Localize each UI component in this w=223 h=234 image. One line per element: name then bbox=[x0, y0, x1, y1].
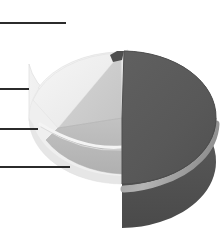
pie-chart-figure: Segment 1 Segment 2 Segment 3 Segment 4 … bbox=[0, 0, 223, 234]
pie-inner-cutaway-group bbox=[29, 50, 129, 184]
pie-chart-canvas bbox=[0, 0, 223, 234]
pie-slice-segment-1-group bbox=[110, 51, 216, 228]
